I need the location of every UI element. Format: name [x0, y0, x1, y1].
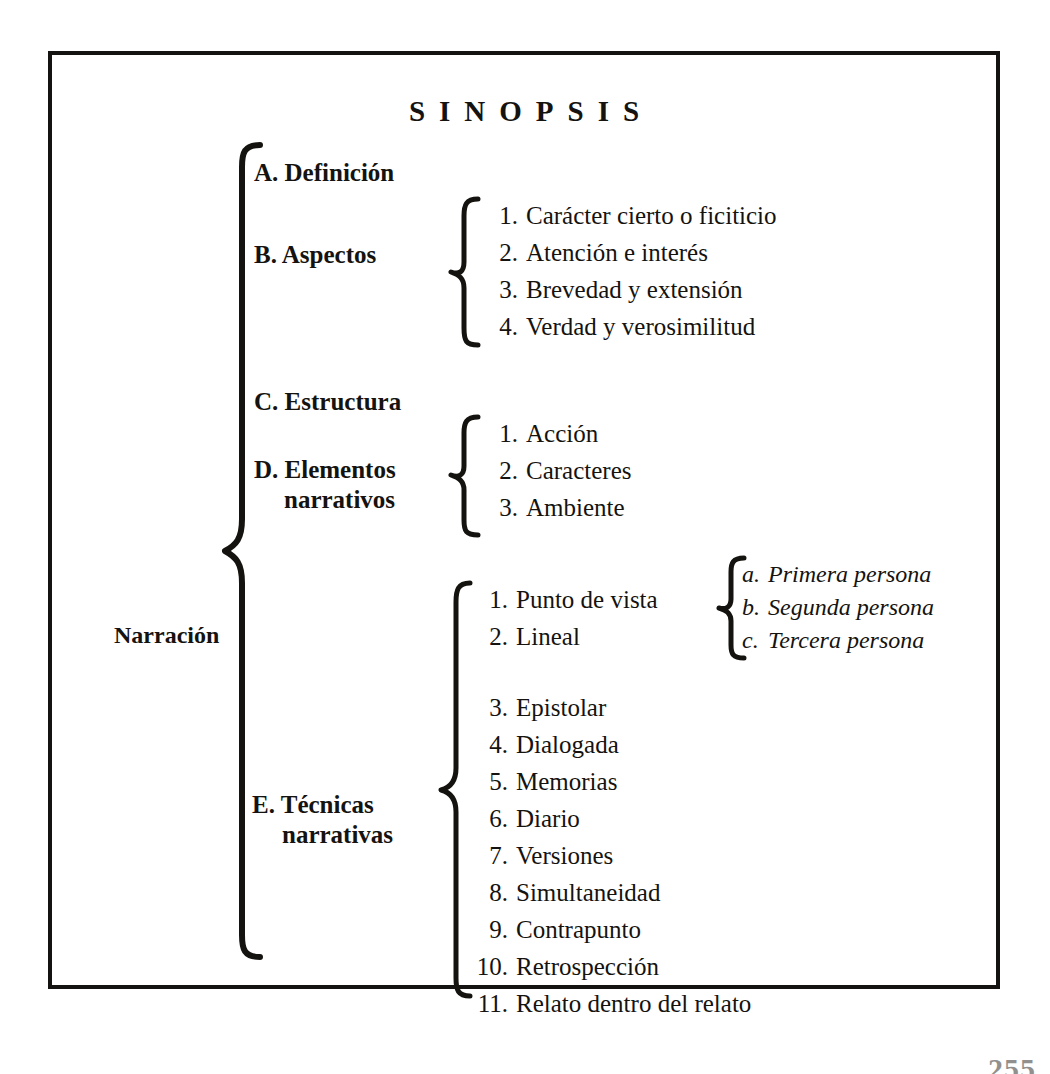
list-item: a. Primera persona: [742, 562, 934, 595]
item-letter: b.: [742, 595, 768, 619]
item-number: 6.: [464, 806, 516, 831]
item-text: Epistolar: [516, 695, 606, 720]
item-text: Relato dentro del relato: [516, 991, 751, 1016]
branch-label-a: A. Definición: [254, 158, 394, 188]
item-text: Caracteres: [526, 458, 631, 483]
branch-e-children: 1. Punto de vista 2. Lineal 3. Epistolar…: [464, 587, 751, 1028]
item-number: 3.: [464, 695, 516, 720]
list-item: 3. Epistolar: [464, 695, 751, 732]
item-number: 10.: [464, 954, 516, 979]
item-text: Memorias: [516, 769, 617, 794]
list-item: b. Segunda persona: [742, 595, 934, 628]
list-item: 2. Atención e interés: [474, 240, 777, 277]
item-text: Diario: [516, 806, 580, 831]
list-item: 5. Memorias: [464, 769, 751, 806]
item-number: 4.: [474, 314, 526, 339]
item-text: Tercera persona: [768, 628, 924, 652]
branch-d-line2: narrativos: [254, 485, 396, 515]
list-item: 2. Lineal: [464, 624, 751, 695]
branch-d-line1: D. Elementos: [254, 456, 396, 483]
item-number: 1.: [464, 587, 516, 612]
item-text: Primera persona: [768, 562, 931, 586]
item-letter: c.: [742, 628, 768, 652]
list-item: 3. Ambiente: [474, 495, 631, 532]
branch-label-e: E. Técnicas narrativas: [252, 790, 393, 849]
item-text: Ambiente: [526, 495, 625, 520]
item-text: Dialogada: [516, 732, 619, 757]
list-item: c. Tercera persona: [742, 628, 934, 661]
branch-b-line1: B. Aspectos: [254, 241, 376, 268]
list-item: 4. Verdad y verosimilitud: [474, 314, 777, 351]
page-title: SINOPSIS: [52, 95, 996, 128]
item-number: 1.: [474, 203, 526, 228]
list-item: 1. Punto de vista: [464, 587, 751, 624]
list-item: 1. Carácter cierto o ficiticio: [474, 203, 777, 240]
root-label-narracion: Narración: [114, 622, 219, 649]
item-number: 1.: [474, 421, 526, 446]
item-text: Lineal: [516, 624, 580, 649]
branch-label-b: B. Aspectos: [254, 240, 376, 270]
list-item: 10. Retrospección: [464, 954, 751, 991]
item-number: 3.: [474, 277, 526, 302]
item-text: Punto de vista: [516, 587, 658, 612]
branch-c-line1: C. Estructura: [254, 388, 401, 415]
list-item: 1. Acción: [474, 421, 631, 458]
branch-label-c: C. Estructura: [254, 387, 401, 417]
item-text: Acción: [526, 421, 598, 446]
item-number: 5.: [464, 769, 516, 794]
branch-e-line2: narrativas: [252, 820, 393, 850]
point-of-view-children: a. Primera persona b. Segunda persona c.…: [742, 562, 934, 661]
list-item: 9. Contrapunto: [464, 917, 751, 954]
item-text: Contrapunto: [516, 917, 641, 942]
list-item: 2. Caracteres: [474, 458, 631, 495]
diagram-frame: SINOPSIS Narración A. Definición B. Aspe…: [48, 51, 1000, 989]
item-text: Segunda persona: [768, 595, 934, 619]
list-item: 4. Dialogada: [464, 732, 751, 769]
list-item: 6. Diario: [464, 806, 751, 843]
item-number: 3.: [474, 495, 526, 520]
list-item: 8. Simultaneidad: [464, 880, 751, 917]
item-number: 8.: [464, 880, 516, 905]
branch-label-d: D. Elementos narrativos: [254, 455, 396, 514]
list-item: 7. Versiones: [464, 843, 751, 880]
item-text: Carácter cierto o ficiticio: [526, 203, 777, 228]
item-letter: a.: [742, 562, 768, 586]
branch-e-line1: E. Técnicas: [252, 791, 374, 818]
branch-d-children: 1. Acción 2. Caracteres 3. Ambiente: [474, 421, 631, 532]
item-text: Simultaneidad: [516, 880, 660, 905]
item-text: Atención e interés: [526, 240, 708, 265]
item-number: 7.: [464, 843, 516, 868]
item-number: 4.: [464, 732, 516, 757]
item-number: 2.: [474, 240, 526, 265]
item-number: 2.: [474, 458, 526, 483]
item-text: Verdad y verosimilitud: [526, 314, 755, 339]
item-number: 9.: [464, 917, 516, 942]
item-text: Brevedad y extensión: [526, 277, 743, 302]
item-number: 2.: [464, 624, 516, 649]
item-number: 11.: [464, 991, 516, 1016]
page-number: 255: [988, 1046, 1036, 1074]
item-text: Versiones: [516, 843, 613, 868]
branch-a-line1: A. Definición: [254, 159, 394, 186]
item-text: Retrospección: [516, 954, 659, 979]
list-item: 11. Relato dentro del relato: [464, 991, 751, 1028]
list-item: 3. Brevedad y extensión: [474, 277, 777, 314]
branch-b-children: 1. Carácter cierto o ficiticio 2. Atenci…: [474, 203, 777, 351]
